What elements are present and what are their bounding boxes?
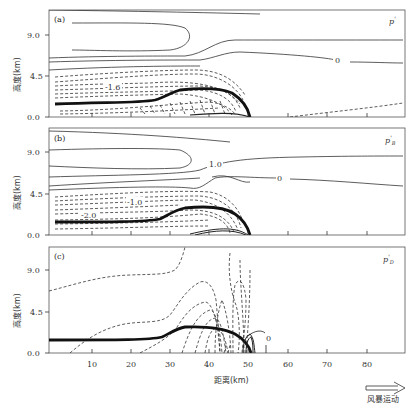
panel-c-ytick-0: 0.0 xyxy=(27,349,40,358)
panel-c-variable: p'D xyxy=(383,253,394,265)
panel-a-label: (a) xyxy=(54,15,65,24)
contour-label-a-zero: 0 xyxy=(335,56,340,65)
panel-b-label: (b) xyxy=(54,134,65,143)
panel-a-y-axis xyxy=(45,35,49,117)
panel-c-y-title: 高度(km) xyxy=(12,293,22,328)
panel-a-y-title: 高度(km) xyxy=(12,57,22,92)
panel-b-y-axis xyxy=(45,152,49,235)
panel-a: 0 -1.6 (a) p' 9.0 4.5 0.0 高度(km) xyxy=(12,10,405,122)
panel-a-ytick-4-5: 4.5 xyxy=(30,72,43,81)
svg-text:30: 30 xyxy=(165,360,175,369)
panel-b-ytick-9: 9.0 xyxy=(27,148,40,157)
panel-b-contours xyxy=(49,131,403,235)
panel-b-y-title: 高度(km) xyxy=(12,175,22,210)
panel-c-x-ticks xyxy=(92,349,367,353)
panel-a-variable: p' xyxy=(389,15,396,26)
panel-c-label: (c) xyxy=(54,252,65,261)
panel-a-frame xyxy=(49,10,405,117)
panel-c: 0 (c) p'D 9.0 4.5 0.0 10 20 30 40 50 60 … xyxy=(12,247,405,385)
panel-a-ytick-9: 9.0 xyxy=(27,31,40,40)
panel-a-contours xyxy=(49,10,403,117)
figure: 0 -1.6 (a) p' 9.0 4.5 0.0 高度(km) xyxy=(0,0,417,408)
panel-b-variable: p'B xyxy=(385,134,396,146)
svg-text:70: 70 xyxy=(322,360,332,369)
contour-label-b-neg2: -2.0 xyxy=(81,211,96,220)
panel-c-ytick-4-5: 4.5 xyxy=(30,308,43,317)
svg-text:60: 60 xyxy=(283,360,293,369)
storm-motion-arrow-icon xyxy=(366,382,405,394)
storm-motion-label: 风暴运动 xyxy=(367,394,399,404)
svg-text:20: 20 xyxy=(126,360,136,369)
panel-b: 1.0 0 -1.0 -2.0 (b) p'B 9.0 4.5 0.0 高度(k… xyxy=(12,128,405,240)
contour-label-b-neg1: -1.0 xyxy=(127,198,142,207)
panel-b-ytick-0: 0.0 xyxy=(27,231,40,240)
svg-text:10: 10 xyxy=(87,360,97,369)
contour-label-a-neg: -1.6 xyxy=(105,83,120,92)
x-axis-title: 距离(km) xyxy=(214,375,249,385)
panel-c-frame xyxy=(49,247,405,353)
panel-a-ytick-0: 0.0 xyxy=(27,113,40,122)
svg-text:50: 50 xyxy=(243,360,253,369)
svg-text:80: 80 xyxy=(362,360,372,369)
contour-label-b-pos: 1.0 xyxy=(209,160,222,169)
panel-c-y-axis xyxy=(45,270,49,353)
x-tick-labels: 10 20 30 40 50 60 70 80 xyxy=(87,360,372,369)
contour-label-c-zero: 0 xyxy=(266,334,271,343)
svg-text:40: 40 xyxy=(204,360,214,369)
panel-b-ytick-4-5: 4.5 xyxy=(30,190,43,199)
panel-c-ytick-9: 9.0 xyxy=(27,266,40,275)
contour-label-b-zero: 0 xyxy=(277,174,282,183)
panel-c-contours xyxy=(49,247,266,353)
